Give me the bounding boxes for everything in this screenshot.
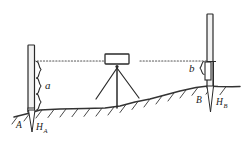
leveling-survey-diagram: a A H A bbox=[0, 0, 249, 151]
instrument-mount-point bbox=[115, 65, 118, 68]
stake-a-shape bbox=[29, 110, 36, 132]
ground-stake-b bbox=[207, 86, 214, 112]
elevation-a-subscript: A bbox=[43, 127, 48, 134]
stake-b-shape bbox=[207, 86, 214, 112]
point-a-label: A bbox=[15, 120, 22, 130]
instrument-telescope-body bbox=[105, 54, 129, 64]
elevation-b-label: H B bbox=[215, 97, 228, 109]
elevation-b-subscript: B bbox=[224, 102, 228, 109]
level-instrument bbox=[105, 54, 129, 68]
brace-b-shape bbox=[200, 62, 204, 75]
measurement-brace-a: a bbox=[37, 62, 52, 111]
tripod-leg-left bbox=[96, 68, 117, 99]
leveling-staff-a bbox=[28, 45, 35, 112]
staff-b-target-plate bbox=[205, 62, 211, 80]
staff-a-body bbox=[28, 45, 35, 112]
survey-diagram-canvas: a A H A bbox=[0, 0, 249, 151]
ground-hatching bbox=[12, 86, 226, 124]
ground-surface bbox=[12, 86, 240, 124]
point-b-label: B bbox=[196, 95, 202, 105]
brace-a-lower-b bbox=[37, 94, 42, 110]
elevation-a-label: H A bbox=[35, 122, 48, 134]
leveling-staff-b bbox=[205, 14, 213, 88]
brace-a-lower-a bbox=[37, 78, 42, 94]
brace-a-upper bbox=[37, 62, 42, 79]
ground-stake-a bbox=[29, 110, 36, 132]
tripod-leg-right bbox=[117, 68, 139, 98]
foresight-reading-label: b bbox=[189, 62, 195, 74]
backsight-reading-label: a bbox=[45, 79, 51, 91]
